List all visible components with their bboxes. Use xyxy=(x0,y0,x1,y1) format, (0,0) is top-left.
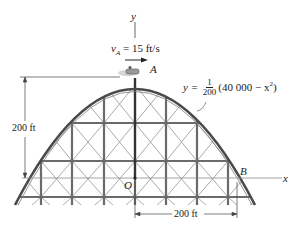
height-label: 200 ft xyxy=(12,123,36,133)
half-span-label: 200 ft xyxy=(174,209,198,219)
coaster-car xyxy=(118,66,139,76)
velocity-arrow xyxy=(125,58,148,63)
roller-coaster-diagram: y x O A B vA = 15 ft/s y = 1200(40 000 −… xyxy=(0,0,294,233)
diagram-svg xyxy=(0,0,294,233)
point-b-label: B xyxy=(240,166,247,177)
origin-label: O xyxy=(124,180,132,191)
origin-point xyxy=(133,176,136,179)
equation-leader xyxy=(197,102,206,111)
parabola-equation: y = 1200(40 000 − x2) xyxy=(183,78,277,98)
x-axis-label: x xyxy=(283,173,288,184)
equation-fraction: 1200 xyxy=(203,78,217,98)
point-a-label: A xyxy=(150,64,157,75)
y-axis-label: y xyxy=(131,11,136,22)
velocity-label: vA = 15 ft/s xyxy=(111,43,160,57)
